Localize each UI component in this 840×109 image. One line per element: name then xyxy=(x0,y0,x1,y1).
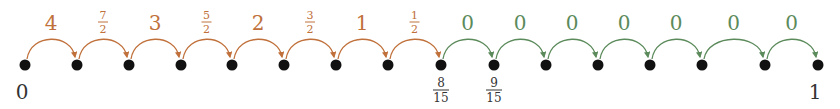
number-line-diagram: 472352232112000000008159151 xyxy=(0,0,840,109)
number-line-point xyxy=(20,60,31,71)
arc-label: 0 xyxy=(566,11,579,35)
number-line-point xyxy=(176,60,187,71)
jump-arc xyxy=(27,39,75,59)
number-line-point xyxy=(697,60,708,71)
number-line-point xyxy=(383,60,394,71)
number-line-point xyxy=(124,60,135,71)
jump-arc xyxy=(390,39,439,59)
jump-arc xyxy=(131,39,179,59)
arc-label-denominator: 2 xyxy=(100,23,107,36)
arc-label: 0 xyxy=(727,11,740,35)
jump-arc xyxy=(652,39,700,59)
number-line-point xyxy=(227,60,238,71)
arc-label-numerator: 7 xyxy=(100,9,107,22)
arc-label-denominator: 2 xyxy=(411,23,418,36)
axis-label: 1 xyxy=(809,80,822,104)
axis-label-numerator: 8 xyxy=(437,76,445,90)
number-line-point xyxy=(331,60,342,71)
jump-arc xyxy=(79,39,127,59)
arc-label: 0 xyxy=(670,11,683,35)
jump-arc xyxy=(234,39,282,59)
arc-label-denominator: 2 xyxy=(307,23,314,36)
number-line-point xyxy=(436,60,447,71)
number-line-point xyxy=(541,60,552,71)
axis-label: 0 xyxy=(16,80,29,104)
arc-label-numerator: 3 xyxy=(307,9,314,22)
number-line-point xyxy=(813,60,824,71)
jump-arc xyxy=(286,39,334,59)
axis-label-denominator: 15 xyxy=(486,91,501,105)
jump-arc xyxy=(496,39,544,59)
labels-layer: 472352232112000000008159151 xyxy=(16,9,822,105)
axis-label-denominator: 15 xyxy=(433,91,448,105)
arc-label-denominator: 2 xyxy=(203,23,210,36)
number-line-point xyxy=(489,60,500,71)
jump-arc xyxy=(548,39,596,59)
arc-label: 0 xyxy=(461,11,474,35)
arc-label-numerator: 5 xyxy=(203,9,210,22)
arcs-layer xyxy=(27,39,816,59)
arc-label: 1 xyxy=(356,11,369,35)
number-line-point xyxy=(645,60,656,71)
arc-label: 3 xyxy=(149,11,162,35)
number-line-point xyxy=(593,60,604,71)
jump-arc xyxy=(704,39,763,59)
number-line-point xyxy=(72,60,83,71)
arc-label: 0 xyxy=(514,11,527,35)
arc-label: 0 xyxy=(618,11,631,35)
axis-label-numerator: 9 xyxy=(490,76,498,90)
dots-layer xyxy=(20,60,824,71)
arc-label: 4 xyxy=(45,11,58,35)
jump-arc xyxy=(767,39,816,59)
number-line-point xyxy=(760,60,771,71)
jump-arc xyxy=(338,39,386,59)
arc-label: 0 xyxy=(785,11,798,35)
jump-arc xyxy=(443,39,492,59)
arc-label-numerator: 1 xyxy=(411,9,418,22)
number-line-point xyxy=(279,60,290,71)
jump-arc xyxy=(183,39,230,59)
jump-arc xyxy=(600,39,648,59)
arc-label: 2 xyxy=(252,11,265,35)
